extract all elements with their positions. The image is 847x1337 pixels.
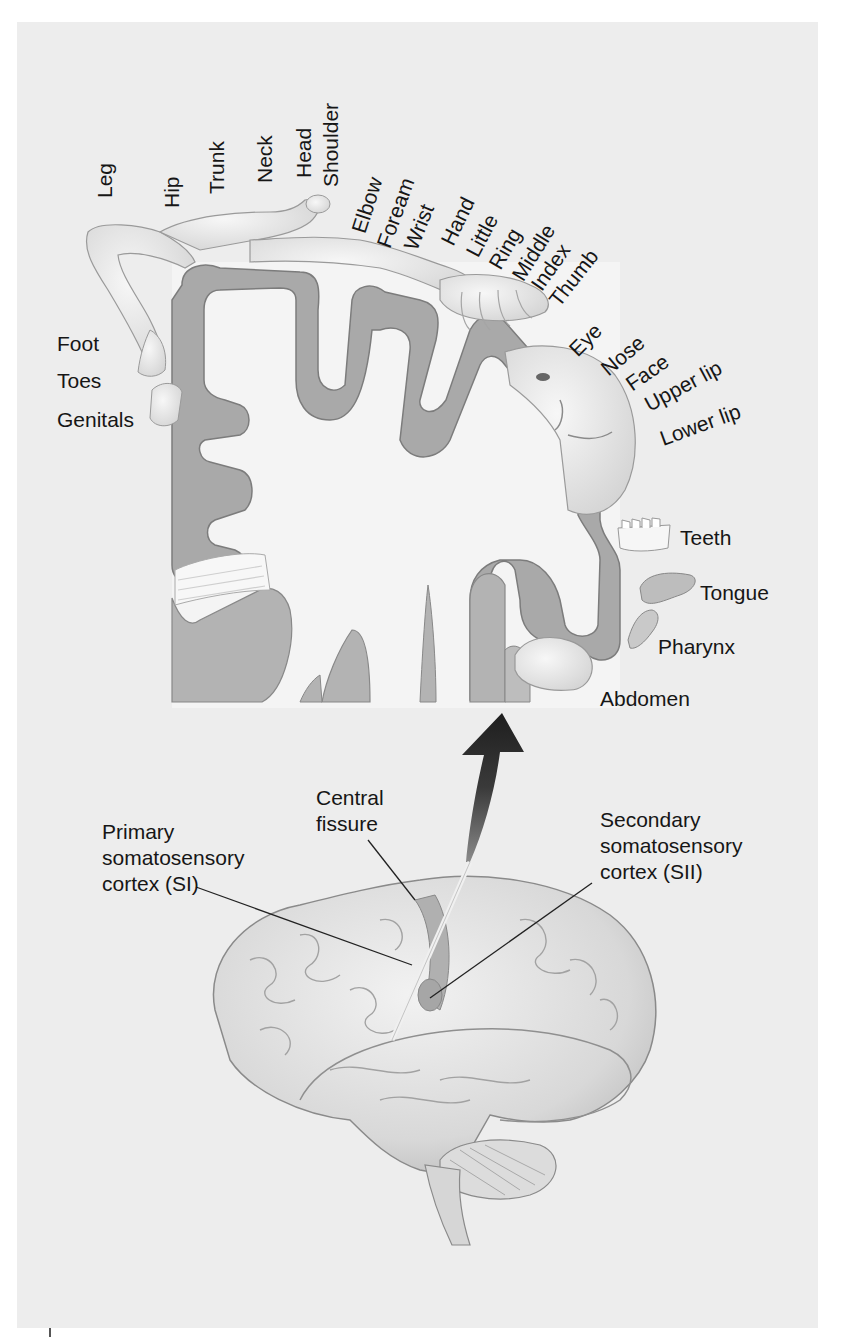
label-trunk: Trunk xyxy=(206,141,227,194)
arrow-icon xyxy=(462,713,524,862)
callout-primary-line2: somatosensory xyxy=(102,845,244,871)
label-teeth: Teeth xyxy=(680,527,731,548)
homunculus-illustration xyxy=(0,0,847,1337)
callout-secondary-line3: cortex (SII) xyxy=(600,859,742,885)
callout-secondary-somatosensory: Secondary somatosensory cortex (SII) xyxy=(600,807,742,885)
label-toes: Toes xyxy=(57,370,101,391)
label-tongue: Tongue xyxy=(700,582,769,603)
label-shoulder: Shoulder xyxy=(320,103,341,187)
callout-secondary-line2: somatosensory xyxy=(600,833,742,859)
label-pharynx: Pharynx xyxy=(658,636,735,657)
callout-primary-line1: Primary xyxy=(102,819,244,845)
callout-primary-line3: cortex (SI) xyxy=(102,871,244,897)
callout-central-fissure-line1: Central xyxy=(316,785,384,811)
callout-secondary-line1: Secondary xyxy=(600,807,742,833)
callout-central-fissure-line2: fissure xyxy=(316,811,384,837)
brain-lateral-view xyxy=(213,862,655,1245)
cortex-slice xyxy=(172,262,620,708)
callout-primary-somatosensory: Primary somatosensory cortex (SI) xyxy=(102,819,244,897)
margin-tick xyxy=(49,1328,51,1337)
label-head: Head xyxy=(293,128,314,178)
callout-central-fissure: Central fissure xyxy=(316,785,384,837)
label-leg: Leg xyxy=(94,163,115,198)
label-hip: Hip xyxy=(161,176,182,208)
label-neck: Neck xyxy=(254,135,275,183)
label-genitals: Genitals xyxy=(57,409,134,430)
label-abdomen: Abdomen xyxy=(600,688,690,709)
label-foot: Foot xyxy=(57,333,99,354)
